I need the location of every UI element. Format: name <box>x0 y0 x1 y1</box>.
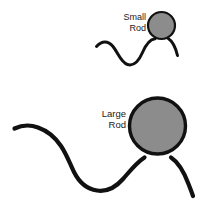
small-rod-head <box>148 12 175 39</box>
large-rod-label-line2: Rod <box>109 119 126 130</box>
large-rod-label-line1: Large <box>102 108 126 119</box>
small-rod-label-line1: Small <box>123 12 146 22</box>
large-rod-head <box>130 98 186 154</box>
small-rod-label-line2: Rod <box>129 23 146 33</box>
rod-diagram: Small Rod Large Rod <box>0 0 204 213</box>
figure-canvas: Small Rod Large Rod <box>0 0 204 213</box>
